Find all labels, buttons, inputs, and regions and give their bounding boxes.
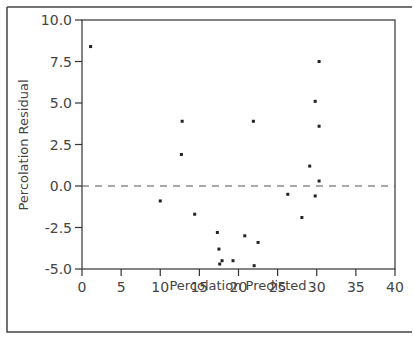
data-point — [216, 231, 219, 234]
data-points — [89, 45, 320, 267]
residual-scatter-chart: -5.0-2.50.02.55.07.510.0 051015202530354… — [0, 0, 414, 339]
y-tick-label: 10.0 — [41, 12, 72, 28]
x-axis-title: Percolation Predicted — [169, 278, 306, 293]
x-tick-label: 0 — [78, 279, 87, 295]
y-axis-title: Percolation Residual — [16, 79, 31, 210]
y-tick-label: 5.0 — [50, 95, 72, 111]
data-point — [257, 241, 260, 244]
data-point — [193, 213, 196, 216]
data-point — [232, 259, 235, 262]
data-point — [253, 264, 256, 267]
y-axis: -5.0-2.50.02.55.07.510.0 — [41, 12, 82, 277]
y-tick-label: -2.5 — [45, 220, 72, 236]
y-tick-label: 7.5 — [50, 54, 72, 70]
data-point — [243, 234, 246, 237]
data-point — [314, 100, 317, 103]
data-point — [286, 193, 289, 196]
y-tick-label: -5.0 — [45, 261, 72, 277]
data-point — [300, 216, 303, 219]
data-point — [221, 259, 224, 262]
x-tick-label: 40 — [386, 279, 404, 295]
y-tick-label: 0.0 — [50, 178, 72, 194]
data-point — [218, 263, 221, 266]
data-point — [308, 165, 311, 168]
x-tick-label: 30 — [308, 279, 326, 295]
data-point — [314, 194, 317, 197]
plot-frame — [82, 20, 395, 269]
data-point — [318, 180, 321, 183]
y-tick-label: 2.5 — [50, 137, 72, 153]
x-tick-label: 5 — [117, 279, 126, 295]
data-point — [318, 60, 321, 63]
data-point — [252, 120, 255, 123]
data-point — [159, 199, 162, 202]
data-point — [181, 120, 184, 123]
data-point — [318, 125, 321, 128]
data-point — [89, 45, 92, 48]
x-tick-label: 35 — [347, 279, 365, 295]
x-tick-label: 10 — [151, 279, 169, 295]
data-point — [180, 153, 183, 156]
data-point — [217, 248, 220, 251]
